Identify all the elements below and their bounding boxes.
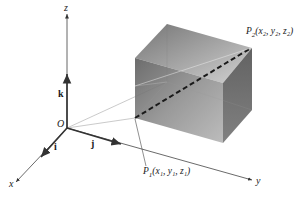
origin-label: O <box>57 119 64 129</box>
p2-coords: (x₂, y₂, z₂) <box>255 26 293 36</box>
p1-label: P1(x₁, y₁, z₁) <box>143 167 190 179</box>
j-label: j <box>91 139 94 149</box>
p2-label: P2(x₂, y₂, z₂) <box>246 27 293 39</box>
z-axis-label: z <box>64 3 68 13</box>
unit-vectors <box>41 74 121 157</box>
i-label: i <box>54 142 57 152</box>
p1-coords: (x₁, y₁, z₁) <box>152 166 190 176</box>
y-axis-label: y <box>256 176 260 186</box>
p1-leader-line <box>135 119 146 166</box>
k-label: k <box>58 89 64 99</box>
x-axis-label: x <box>9 179 13 189</box>
